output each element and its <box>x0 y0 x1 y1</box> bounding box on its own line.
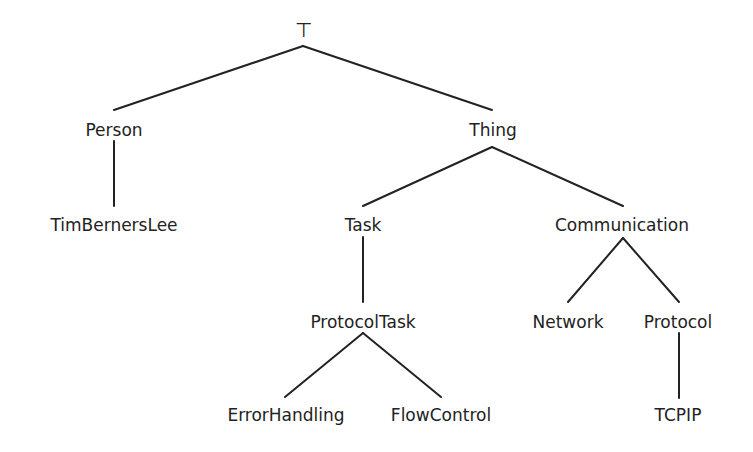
edge-thing-task <box>363 147 492 206</box>
node-thing: Thing <box>469 122 516 139</box>
edge-thing-communication <box>492 147 623 206</box>
edge-communication-protocol <box>623 238 679 302</box>
node-protocol: Protocol <box>644 314 713 331</box>
node-protocoltask: ProtocolTask <box>310 314 415 331</box>
node-flowcontrol: FlowControl <box>391 407 491 424</box>
edge-top-person <box>114 46 303 110</box>
edge-protocoltask-errorhandling <box>285 333 363 397</box>
node-errorhandling: ErrorHandling <box>227 407 344 424</box>
node-task: Task <box>345 217 382 234</box>
node-tcpip: TCPIP <box>655 407 702 424</box>
edge-communication-network <box>568 238 623 302</box>
node-communication: Communication <box>555 217 689 234</box>
node-person: Person <box>85 122 142 139</box>
edge-top-thing <box>303 46 492 110</box>
node-network: Network <box>533 314 604 331</box>
node-timbernerslee: TimBernersLee <box>50 217 177 234</box>
node-top: ⊤ <box>295 20 312 40</box>
edge-protocoltask-flowcontrol <box>363 333 441 397</box>
